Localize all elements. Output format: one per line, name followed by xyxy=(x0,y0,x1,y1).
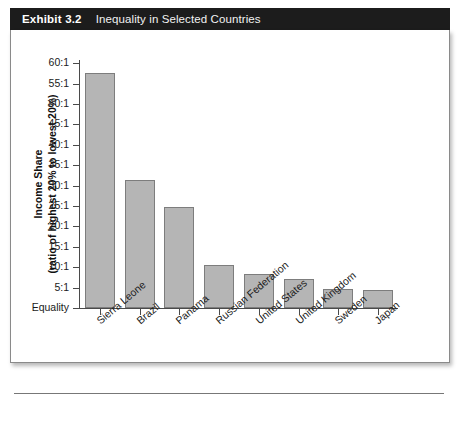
y-tick: Equality xyxy=(73,308,79,309)
y-tick-label: 10:1 xyxy=(49,260,69,272)
exhibit-card: Exhibit 3.2 Inequality in Selected Count… xyxy=(10,8,450,363)
y-tick: 25:1 xyxy=(73,206,79,207)
bottom-rule xyxy=(14,393,444,394)
y-tick-label: 45:1 xyxy=(49,117,69,129)
y-tick-label: 30:1 xyxy=(49,179,69,191)
y-tick: 5:1 xyxy=(73,288,79,289)
y-tick: 20:1 xyxy=(73,226,79,227)
y-tick: 10:1 xyxy=(73,267,79,268)
y-axis-line xyxy=(79,60,80,309)
y-tick: 60:1 xyxy=(73,63,79,64)
y-tick-label: 40:1 xyxy=(49,138,69,150)
bar-chart: Income Share (ratio of highest 20% to lo… xyxy=(11,30,451,363)
y-tick: 55:1 xyxy=(73,84,79,85)
y-tick-label: 15:1 xyxy=(49,240,69,252)
y-tick-label: 5:1 xyxy=(54,281,69,293)
y-tick-label: Equality xyxy=(32,301,69,313)
y-tick: 15:1 xyxy=(73,247,79,248)
y-tick: 45:1 xyxy=(73,124,79,125)
y-tick-label: 20:1 xyxy=(49,219,69,231)
y-tick: 30:1 xyxy=(73,186,79,187)
bar xyxy=(164,207,194,308)
y-tick-label: 50:1 xyxy=(49,97,69,109)
y-tick: 50:1 xyxy=(73,104,79,105)
y-tick-label: 55:1 xyxy=(49,77,69,89)
y-axis-title-line1: Income Share xyxy=(31,150,45,219)
y-tick: 40:1 xyxy=(73,145,79,146)
y-tick-label: 60:1 xyxy=(49,56,69,68)
exhibit-title: Inequality in Selected Countries xyxy=(96,13,261,25)
y-tick-label: 35:1 xyxy=(49,158,69,170)
y-tick-label: 25:1 xyxy=(49,199,69,211)
y-tick: 35:1 xyxy=(73,165,79,166)
exhibit-title-bar: Exhibit 3.2 Inequality in Selected Count… xyxy=(10,8,450,30)
bar xyxy=(85,73,115,308)
exhibit-body: Income Share (ratio of highest 20% to lo… xyxy=(10,30,450,363)
exhibit-number: Exhibit 3.2 xyxy=(22,13,82,25)
